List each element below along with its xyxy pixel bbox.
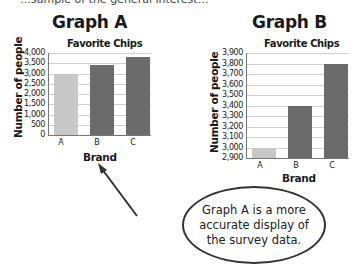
callout-bubble: Graph A is a more accurate display of th… — [182, 186, 326, 264]
callout-text: Graph A is a more accurate display of th… — [184, 203, 324, 248]
